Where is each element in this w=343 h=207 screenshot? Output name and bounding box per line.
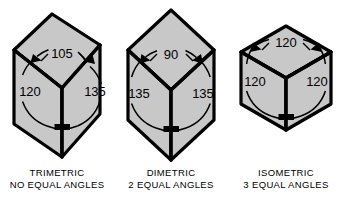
caption-title: TRIMETRIC: [0, 167, 114, 179]
arrowhead-vertical-axis: [164, 126, 180, 132]
caption-dimetric: DIMETRIC 2 EQUAL ANGLES: [114, 167, 228, 190]
angle-label-right: 135: [192, 86, 214, 101]
angle-label-top: 90: [164, 47, 178, 62]
cube-diagram-dimetric: 90 135 135: [114, 2, 228, 167]
arrowhead-vertical-axis: [279, 114, 295, 120]
cube-diagram-trimetric: 105 120 135: [0, 2, 114, 167]
caption-subtitle: 3 EQUAL ANGLES: [229, 179, 343, 191]
cube-body-dimetric: [128, 10, 214, 160]
angle-label-top: 105: [51, 46, 73, 61]
cube-diagram-isometric: 120 120 120: [229, 2, 343, 167]
angle-label-right: 135: [84, 84, 106, 99]
angle-label-left: 135: [128, 86, 150, 101]
angle-label-left: 120: [244, 74, 266, 89]
caption-title: ISOMETRIC: [229, 167, 343, 179]
angle-label-left: 120: [19, 84, 41, 99]
angle-label-right: 120: [306, 74, 328, 89]
cube-panel-trimetric: 105 120 135 TRIMETRIC NO EQUAL ANGLES: [0, 0, 114, 207]
caption-title: DIMETRIC: [114, 167, 228, 179]
arrowhead-vertical-axis: [55, 124, 71, 130]
caption-subtitle: 2 EQUAL ANGLES: [114, 179, 228, 191]
angle-label-top: 120: [275, 35, 297, 50]
axonometric-projection-figure: 105 120 135 TRIMETRIC NO EQUAL ANGLES: [0, 0, 343, 207]
caption-subtitle: NO EQUAL ANGLES: [0, 179, 114, 191]
caption-trimetric: TRIMETRIC NO EQUAL ANGLES: [0, 167, 114, 190]
cube-panel-isometric: 120 120 120 ISOMETRIC 3 EQUAL ANGLES: [229, 0, 343, 207]
caption-isometric: ISOMETRIC 3 EQUAL ANGLES: [229, 167, 343, 190]
cube-panel-dimetric: 90 135 135 DIMETRIC 2 EQUAL ANGLES: [114, 0, 228, 207]
